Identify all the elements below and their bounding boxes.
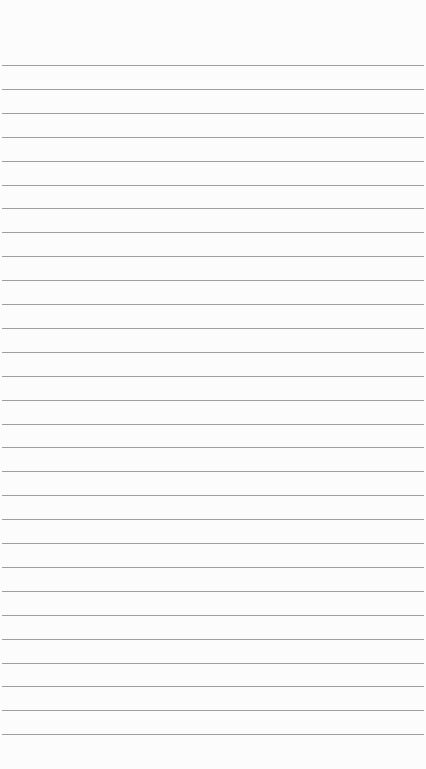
- ruled-line: [2, 161, 424, 162]
- ruled-line: [2, 352, 424, 353]
- ruled-line: [2, 137, 424, 138]
- ruled-line: [2, 280, 424, 281]
- ruled-line: [2, 710, 424, 711]
- ruled-line: [2, 65, 424, 66]
- ruled-line: [2, 256, 424, 257]
- ruled-line: [2, 447, 424, 448]
- ruled-line: [2, 615, 424, 616]
- ruled-line: [2, 543, 424, 544]
- ruled-line: [2, 400, 424, 401]
- ruled-line: [2, 734, 424, 735]
- lined-paper-sheet: [0, 0, 426, 769]
- ruled-line: [2, 686, 424, 687]
- ruled-line: [2, 185, 424, 186]
- ruled-line: [2, 591, 424, 592]
- ruled-line: [2, 208, 424, 209]
- ruled-line: [2, 495, 424, 496]
- ruled-line: [2, 328, 424, 329]
- ruled-line: [2, 113, 424, 114]
- ruled-line: [2, 89, 424, 90]
- ruled-line: [2, 639, 424, 640]
- ruled-line: [2, 232, 424, 233]
- ruled-line: [2, 663, 424, 664]
- ruled-line: [2, 519, 424, 520]
- ruled-line: [2, 376, 424, 377]
- ruled-line: [2, 424, 424, 425]
- ruled-line: [2, 567, 424, 568]
- ruled-line: [2, 471, 424, 472]
- ruled-line: [2, 304, 424, 305]
